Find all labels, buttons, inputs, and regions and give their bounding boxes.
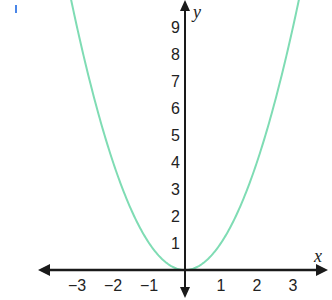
y-tick-labels: 123456789	[171, 19, 180, 252]
y-axis-up-arrow-icon	[180, 0, 190, 11]
y-tick-label: 4	[171, 154, 180, 171]
y-tick-label: 2	[171, 208, 180, 225]
x-axis-label: x	[313, 246, 322, 266]
y-tick-label: 1	[171, 235, 180, 252]
y-axis-label: y	[191, 2, 201, 22]
y-tick-label: 6	[171, 100, 180, 117]
y-axis-down-arrow-icon	[180, 287, 190, 298]
y-tick-label: 8	[171, 46, 180, 63]
x-tick-label: 2	[253, 277, 262, 294]
blue-mark	[15, 5, 17, 13]
y-tick-label: 5	[171, 127, 180, 144]
x-tick-label: −3	[68, 277, 86, 294]
x-tick-label: 1	[217, 277, 226, 294]
x-tick-label: −1	[140, 277, 158, 294]
x-tick-label: 3	[289, 277, 298, 294]
x-tick-label: −2	[104, 277, 122, 294]
y-tick-label: 3	[171, 181, 180, 198]
x-axis-left-arrow-icon	[38, 264, 50, 276]
y-tick-label: 9	[171, 19, 180, 36]
y-tick-label: 7	[171, 73, 180, 90]
parabola-chart: y x −3−2−1123 123456789	[0, 0, 332, 300]
